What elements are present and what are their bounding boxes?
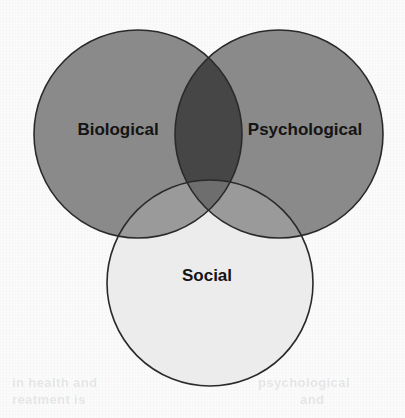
venn-diagram-figure: in health and reatment is psychological … [0, 0, 405, 418]
venn-label-social: Social [182, 266, 232, 285]
venn-svg-canvas: Biological Psychological Social [0, 0, 405, 418]
venn-label-psychological: Psychological [248, 120, 362, 139]
venn-label-biological: Biological [77, 120, 158, 139]
